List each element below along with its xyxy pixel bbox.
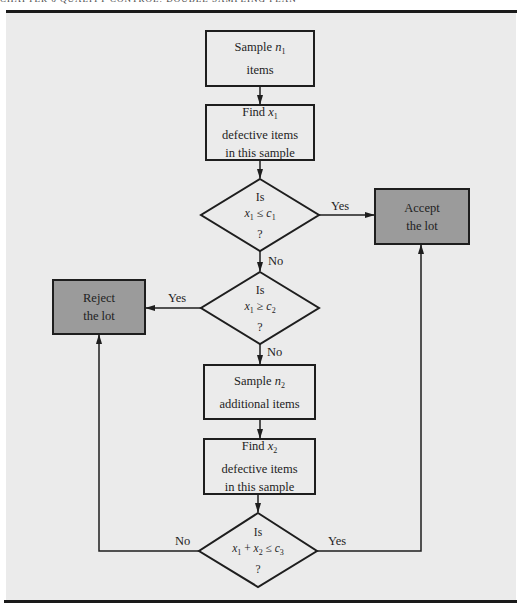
find-x1-prefix: Find [242,105,268,119]
find-x1-line2: defective items [222,126,298,144]
reject-lot-text: Reject the lot [53,280,145,334]
d1-yes-label: Yes [331,199,349,214]
op-ge: ≥ [254,299,267,313]
d1-no-label: No [268,254,283,269]
sub-1: 1 [272,213,276,222]
find-x2-line3: in this sample [225,478,294,496]
sample-n1-text: Sample n1 items [206,31,314,86]
op-le: ≤ [254,206,267,220]
d2-yes-label: Yes [168,291,186,306]
op-plus: + [241,542,253,554]
decision1-is: Is [256,189,265,205]
sub-2: 2 [272,306,276,315]
d2-no-label: No [267,345,282,360]
op-le: ≤ [263,542,275,554]
find-x2-line2: defective items [221,460,297,478]
decision3-is: Is [254,524,262,540]
decision1-text: Is x1 ≤ c1 ? [215,188,305,242]
sub-2: 2 [273,446,277,455]
sample-n2-text: Sample n2 additional items [204,365,315,419]
decision2-is: Is [256,282,265,298]
find-x1-text: Find x1 defective items in this sample [206,105,314,160]
reject-line2: the lot [83,307,115,325]
sub-1: 1 [281,47,285,56]
find-x1-line3: in this sample [225,144,294,162]
sub-3: 3 [280,548,284,557]
accept-lot-text: Accept the lot [375,189,469,244]
decision2-text: Is x1 ≥ c2 ? [215,281,305,335]
decision1-question: ? [257,226,262,242]
sample-n1-prefix: Sample [235,40,276,54]
decision3-text: Is x1 + x2 ≤ c3 ? [203,523,313,577]
reject-line1: Reject [83,289,115,307]
sample-n2-prefix: Sample [234,374,275,388]
sub-1: 1 [274,112,278,121]
accept-line1: Accept [404,199,439,217]
sample-n1-line2: items [246,61,273,79]
decision2-question: ? [257,319,262,335]
arrow-d3-no-reject [99,335,199,551]
d3-yes-label: Yes [328,534,346,549]
d3-no-label: No [175,534,190,549]
accept-line2: the lot [406,217,438,235]
sample-n2-line2: additional items [219,395,299,413]
find-x2-prefix: Find [242,439,268,453]
sub-2: 2 [281,381,285,390]
arrow-d3-yes-accept [317,245,421,551]
find-x2-text: Find x2 defective items in this sample [204,439,315,494]
figure-page: CHAPTER 6 QUALITY CONTROL: DOUBLE SAMPLI… [0,0,522,608]
decision3-question: ? [255,561,260,577]
